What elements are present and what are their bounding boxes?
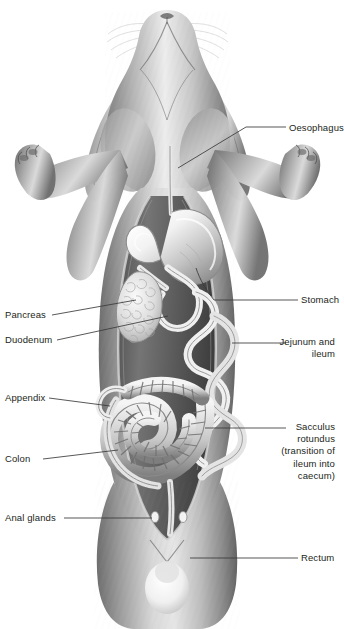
label-oesophagus: Oesophagus xyxy=(289,122,344,134)
label-anal-glands: Anal glands xyxy=(5,512,56,524)
label-colon: Colon xyxy=(5,453,30,465)
oesophagus-organ xyxy=(170,146,171,214)
label-appendix: Appendix xyxy=(5,392,45,404)
label-jejunum-ileum: Jejunum and ileum xyxy=(269,336,335,360)
label-duodenum: Duodenum xyxy=(5,334,52,346)
label-pancreas: Pancreas xyxy=(5,309,46,321)
label-rectum: Rectum xyxy=(301,552,334,564)
hindquarters-group xyxy=(94,482,240,629)
label-sacculus-rotundus: Sacculus rotundus (transition of ileum i… xyxy=(269,421,335,482)
label-stomach: Stomach xyxy=(301,294,339,306)
